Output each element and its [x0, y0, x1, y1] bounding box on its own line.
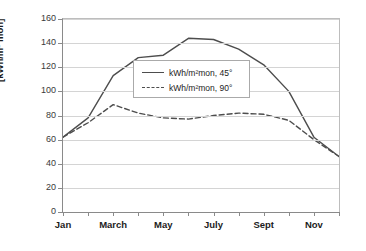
- legend-line-solid-icon: [142, 68, 164, 77]
- legend-item-series-1: kWh/m²mon, 45°: [134, 65, 249, 80]
- x-tick-mark-oct: [289, 212, 290, 216]
- y-tick-label-40: 40: [24, 159, 56, 168]
- solar-irradiation-line-chart: [kWh/m² mon] 020406080100120140160 JanMa…: [0, 0, 366, 251]
- gridline-80: [63, 116, 339, 117]
- y-tick-label-0: 0: [24, 207, 56, 216]
- y-axis-title: [kWh/m² mon]: [0, 0, 5, 82]
- x-tick-mark-april: [138, 212, 139, 216]
- x-tick-mark-march: [113, 212, 114, 216]
- x-tick-label-nov: Nov: [289, 219, 339, 230]
- x-tick-mark-sept: [264, 212, 265, 216]
- series-line-2: [63, 105, 339, 157]
- gridline-160: [63, 19, 339, 20]
- x-tick-label-may: May: [138, 219, 188, 230]
- y-tick-label-80: 80: [24, 111, 56, 120]
- y-tick-label-100: 100: [24, 86, 56, 95]
- y-tick-label-60: 60: [24, 135, 56, 144]
- y-tick-label-160: 160: [24, 14, 56, 23]
- gridline-140: [63, 43, 339, 44]
- y-tick-label-140: 140: [24, 38, 56, 47]
- legend-item-series-2: kWh/m²mon, 90°: [134, 80, 249, 95]
- x-tick-mark-aug: [239, 212, 240, 216]
- x-tick-label-march: March: [88, 219, 138, 230]
- gridline-60: [63, 140, 339, 141]
- gridline-20: [63, 188, 339, 189]
- x-tick-mark-nov: [314, 212, 315, 216]
- gridline-40: [63, 164, 339, 165]
- x-tick-mark-dec: [339, 212, 340, 216]
- x-tick-mark-feb: [88, 212, 89, 216]
- x-tick-label-sept: Sept: [239, 219, 289, 230]
- y-tick-label-20: 20: [24, 183, 56, 192]
- y-tick-label-120: 120: [24, 62, 56, 71]
- plot-area: [62, 18, 340, 213]
- x-tick-label-jan: Jan: [38, 219, 88, 230]
- chart-legend: kWh/m²mon, 45° kWh/m²mon, 90°: [133, 60, 250, 98]
- legend-line-dashed-icon: [142, 83, 164, 92]
- legend-label-series-2: kWh/m²mon, 90°: [169, 83, 232, 93]
- legend-label-series-1: kWh/m²mon, 45°: [169, 68, 232, 78]
- x-tick-mark-may: [163, 212, 164, 216]
- x-tick-mark-july: [214, 212, 215, 216]
- x-tick-mark-jan: [63, 212, 64, 216]
- x-tick-mark-june: [188, 212, 189, 216]
- x-tick-label-july: July: [189, 219, 239, 230]
